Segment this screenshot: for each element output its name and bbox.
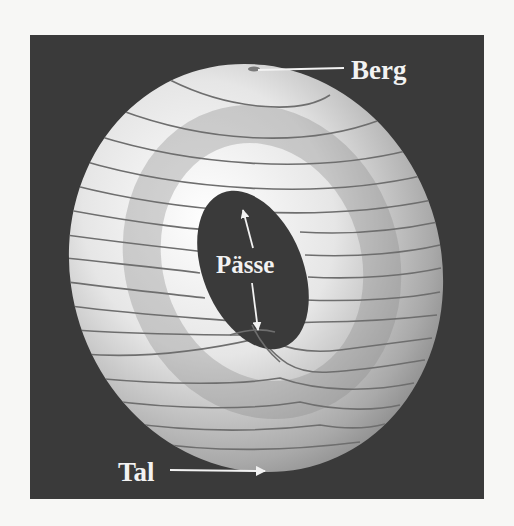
label-tal: Tal <box>118 457 155 487</box>
torus-contour-figure: Berg Pässe Tal <box>0 0 514 526</box>
label-paesse: Pässe <box>216 251 274 278</box>
label-berg: Berg <box>351 55 407 85</box>
